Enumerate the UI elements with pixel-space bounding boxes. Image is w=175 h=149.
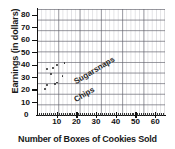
x-minor-tick: [59, 113, 60, 116]
x-minor-tick: [72, 113, 73, 116]
x-tick-label: 30: [86, 118, 106, 126]
y-tick-label: 10: [0, 99, 30, 107]
x-minor-tick: [118, 113, 119, 116]
x-minor-tick: [51, 113, 52, 116]
y-tick-mark: [32, 102, 38, 103]
x-minor-tick: [141, 113, 142, 116]
x-minor-tick: [84, 113, 85, 116]
x-minor-tick: [112, 113, 113, 116]
origin-label: 0: [24, 110, 28, 119]
x-minor-tick: [137, 113, 138, 116]
x-minor-tick: [43, 113, 44, 116]
x-minor-tick: [53, 113, 54, 116]
data-point: [56, 82, 58, 84]
plot-area: Sugarsnaps Chips: [37, 9, 165, 115]
y-tick-mark: [32, 27, 38, 28]
x-tick-label: 50: [125, 118, 145, 126]
y-tick-label: 80: [0, 11, 30, 19]
x-minor-tick: [122, 113, 123, 116]
x-minor-tick: [114, 113, 115, 116]
x-minor-tick: [157, 113, 158, 116]
data-point: [52, 67, 54, 69]
y-tick-mark: [32, 65, 38, 66]
x-minor-tick: [61, 113, 62, 116]
x-minor-tick: [110, 113, 111, 116]
x-minor-tick: [102, 113, 103, 116]
x-tick-label: 20: [66, 118, 86, 126]
data-point: [56, 64, 58, 66]
x-minor-tick: [159, 113, 160, 116]
x-minor-tick: [69, 113, 70, 116]
y-tick-label: 50: [0, 49, 30, 57]
data-point: [62, 75, 64, 77]
x-minor-tick: [151, 113, 152, 116]
x-minor-tick: [98, 113, 99, 116]
x-minor-tick: [143, 113, 144, 116]
x-minor-tick: [133, 113, 134, 116]
x-minor-tick: [100, 113, 101, 116]
x-minor-tick: [145, 113, 146, 116]
x-minor-tick: [161, 113, 162, 116]
x-minor-tick: [90, 113, 91, 116]
x-minor-tick: [94, 113, 95, 116]
data-point: [46, 68, 48, 70]
x-tick-label: 60: [145, 118, 165, 126]
series-label-chips: Chips: [72, 85, 96, 104]
y-tick-mark: [32, 40, 38, 41]
x-minor-tick: [47, 113, 48, 116]
x-minor-tick: [78, 113, 79, 116]
x-minor-tick: [120, 113, 121, 116]
x-minor-tick: [49, 113, 50, 116]
x-minor-tick: [108, 113, 109, 116]
x-minor-tick: [147, 113, 148, 116]
x-axis-title: Number of Boxes of Cookies Sold: [0, 134, 175, 144]
x-minor-tick: [128, 113, 129, 116]
x-minor-tick: [82, 113, 83, 116]
x-tick-label: 40: [106, 118, 126, 126]
data-point: [64, 62, 66, 64]
y-axis-line: [37, 8, 38, 116]
y-tick-label: 20: [0, 86, 30, 94]
x-minor-tick: [80, 113, 81, 116]
y-tick-label: 60: [0, 36, 30, 44]
x-tick-label: 10: [47, 118, 67, 126]
x-minor-tick: [163, 113, 164, 116]
series-label-sugarsnaps: Sugarsnaps: [72, 55, 116, 86]
y-tick-mark: [32, 52, 38, 53]
x-minor-tick: [74, 113, 75, 116]
x-minor-tick: [65, 113, 66, 116]
y-tick-label: 30: [0, 74, 30, 82]
x-minor-tick: [124, 113, 125, 116]
x-minor-tick: [67, 113, 68, 116]
x-minor-tick: [104, 113, 105, 116]
x-minor-tick: [132, 113, 133, 116]
y-tick-label: 70: [0, 24, 30, 32]
x-minor-tick: [45, 113, 46, 116]
x-minor-tick: [70, 113, 71, 116]
x-minor-tick: [130, 113, 131, 116]
x-minor-tick: [39, 113, 40, 116]
x-minor-tick: [126, 113, 127, 116]
data-point: [50, 73, 52, 75]
x-minor-tick: [63, 113, 64, 116]
x-minor-tick: [88, 113, 89, 116]
x-minor-tick: [153, 113, 154, 116]
data-point: [44, 88, 46, 90]
x-minor-tick: [139, 113, 140, 116]
x-minor-tick: [86, 113, 87, 116]
data-point: [54, 83, 56, 85]
x-minor-tick: [149, 113, 150, 116]
x-minor-tick: [92, 113, 93, 116]
y-tick-mark: [32, 15, 38, 16]
y-tick-label: 40: [0, 61, 30, 69]
y-tick-mark: [32, 77, 38, 78]
y-tick-mark: [32, 89, 38, 90]
x-minor-tick: [55, 113, 56, 116]
data-point: [46, 84, 48, 86]
x-minor-tick: [41, 113, 42, 116]
scatter-plot-figure: Earnings (in dollars) Sugarsnaps Chips 1…: [0, 0, 175, 149]
x-minor-tick: [106, 113, 107, 116]
